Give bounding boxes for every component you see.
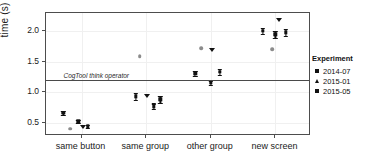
error-bar-cap — [218, 75, 222, 76]
error-bar-cap — [193, 76, 197, 77]
error-bar-cap — [284, 36, 288, 37]
square-icon — [312, 69, 322, 72]
error-bar-cap — [134, 100, 138, 101]
square-icon — [312, 89, 322, 92]
x-axis-tick-label: new screen — [234, 141, 314, 151]
data-point-2015-05 — [261, 29, 264, 32]
y-axis-tick-label: 1.5 — [13, 56, 39, 66]
error-bar-cap — [284, 29, 288, 30]
data-point-2014-07 — [138, 54, 142, 58]
error-bar-cap — [260, 34, 264, 35]
data-point-2015-05 — [218, 70, 221, 73]
reference-line-label: CogTool think operator — [63, 72, 129, 79]
gridline-horizontal — [46, 31, 309, 32]
error-bar-cap — [61, 115, 65, 116]
gridline-vertical — [211, 13, 212, 134]
legend-item-label: 2015-05 — [323, 87, 351, 96]
data-point-2015-05 — [86, 125, 89, 128]
error-bar-cap — [158, 96, 162, 97]
data-point-2014-07 — [68, 127, 72, 131]
data-point-2015-05 — [152, 104, 155, 107]
x-axis-tick-mark — [274, 135, 275, 138]
error-bar-cap — [152, 109, 156, 110]
gridline-vertical — [146, 13, 147, 134]
data-point-2015-05 — [274, 33, 277, 36]
legend: Experiment 2014-072015-012015-05 — [312, 54, 370, 97]
legend-item-label: 2015-01 — [323, 77, 351, 86]
plot-panel: CogTool think operator — [45, 12, 310, 135]
legend-item[interactable]: 2014-07 — [312, 67, 370, 76]
x-axis-tick-mark — [145, 135, 146, 138]
y-axis-tick-label: 0.5 — [13, 117, 39, 127]
data-point-2015-01 — [144, 94, 150, 98]
error-bar-cap — [158, 103, 162, 104]
x-axis-tick-mark — [210, 135, 211, 138]
error-bar-cap — [76, 123, 80, 124]
data-point-2015-05 — [284, 31, 287, 34]
data-point-2015-05 — [134, 95, 137, 98]
legend-item-label: 2014-07 — [323, 67, 351, 76]
data-point-2014-07 — [199, 47, 203, 51]
triangle-icon — [312, 79, 322, 83]
data-point-2015-01 — [209, 48, 215, 52]
data-point-2015-05 — [194, 72, 197, 75]
legend-items: 2014-072015-012015-05 — [312, 67, 370, 96]
y-axis-title: time (s) — [0, 0, 10, 50]
x-axis-tick-mark — [81, 135, 82, 138]
data-point-2015-01 — [276, 18, 282, 22]
legend-item[interactable]: 2015-05 — [312, 87, 370, 96]
gridline-horizontal — [46, 92, 309, 93]
gridline-horizontal — [46, 123, 309, 124]
data-point-2015-05 — [77, 120, 80, 123]
error-bar-cap — [86, 128, 90, 129]
reference-line — [46, 80, 309, 81]
data-point-2014-07 — [270, 47, 274, 51]
legend-item[interactable]: 2015-01 — [312, 77, 370, 86]
data-point-2015-05 — [159, 98, 162, 101]
y-axis-tick-label: 2.0 — [13, 25, 39, 35]
y-axis-tick-label: 1.0 — [13, 86, 39, 96]
error-bar-cap — [209, 85, 213, 86]
data-point-2015-05 — [62, 111, 65, 114]
legend-title: Experiment — [312, 54, 370, 63]
gridline-horizontal — [46, 62, 309, 63]
scatter-chart: time (s) 0.51.01.52.0 CogTool think oper… — [0, 0, 371, 166]
data-point-2015-05 — [209, 81, 212, 84]
error-bar-cap — [273, 38, 277, 39]
